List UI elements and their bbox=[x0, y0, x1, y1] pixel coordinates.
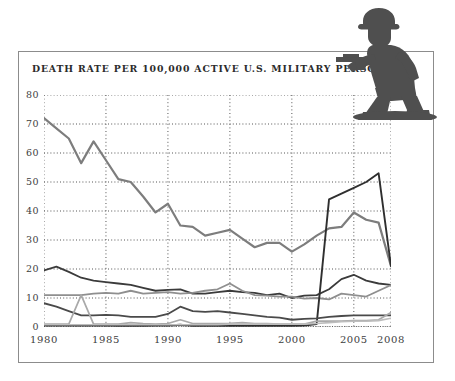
series-line-total-death-rate bbox=[44, 118, 391, 266]
y-tick-label: 10 bbox=[13, 292, 39, 303]
y-tick-label: 80 bbox=[13, 89, 39, 100]
y-tick-label: 40 bbox=[13, 205, 39, 216]
y-tick-label: 20 bbox=[13, 263, 39, 274]
x-tick-label: 1980 bbox=[30, 334, 58, 345]
y-tick-label: 60 bbox=[13, 147, 39, 158]
series-line-self-inflicted-death-rate bbox=[44, 303, 391, 320]
y-tick-label: 50 bbox=[13, 176, 39, 187]
x-tick-label: 1985 bbox=[92, 334, 120, 345]
plot-area bbox=[44, 95, 391, 327]
toy-soldier-icon bbox=[333, 2, 445, 120]
x-tick-label: 2005 bbox=[340, 334, 368, 345]
series-line-hostile-action-death-rate bbox=[44, 173, 391, 326]
series-line-homicide-death-rate bbox=[44, 295, 391, 324]
plot-svg bbox=[44, 95, 391, 327]
x-tick-label: 1995 bbox=[216, 334, 244, 345]
x-tick-label: 1990 bbox=[154, 334, 182, 345]
y-tick-label: 30 bbox=[13, 234, 39, 245]
chart-figure: DEATH RATE PER 100,000 ACTIVE U.S. MILIT… bbox=[0, 0, 455, 381]
y-tick-label: 70 bbox=[13, 118, 39, 129]
y-tick-label: 0 bbox=[13, 321, 39, 332]
x-tick-label: 2000 bbox=[278, 334, 306, 345]
x-tick-label: 2008 bbox=[377, 334, 405, 345]
